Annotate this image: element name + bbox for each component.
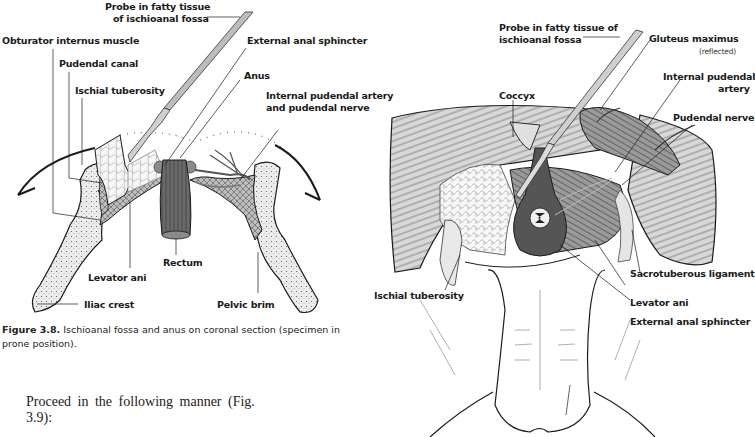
label-coccyx: Coccyx (499, 90, 535, 101)
label-levator-ani-3-9: Levator ani (630, 297, 688, 308)
label-external-anal-sphincter-3-9: External anal sphincter (630, 316, 750, 327)
label-internal-pudendal-artery-line2: artery (718, 83, 750, 94)
label-ischial-tuberosity-3-9: Ischial tuberosity (374, 290, 464, 301)
label-probe-3-9-line1: Probe in fatty tissue of (499, 22, 618, 33)
label-sacrotuberous-ligament: Sacrotuberous ligament (630, 268, 755, 279)
label-pudendal-nerve: Pudendal nerve (673, 112, 754, 123)
label-internal-pudendal-artery-line1: Internal pudendal (663, 71, 755, 82)
label-gluteus-maximus: Gluteus maximus (649, 33, 739, 44)
label-probe-3-9-line2: ischioanal fossa (499, 34, 581, 45)
label-gluteus-reflected: (reflected) (699, 46, 736, 57)
